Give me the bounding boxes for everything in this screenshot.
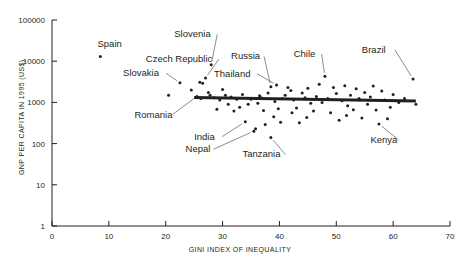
annotation-label: India — [194, 131, 215, 142]
data-point — [305, 116, 308, 119]
data-point — [318, 83, 321, 86]
data-point — [323, 75, 326, 78]
data-point — [372, 85, 375, 88]
scatter-chart: 110100100010000100000 010203040506070 Sp… — [0, 0, 470, 263]
data-point — [264, 123, 267, 126]
data-point — [178, 81, 181, 84]
annotation-label: Nepal — [186, 143, 211, 154]
annotation-label: Spain — [97, 38, 121, 49]
data-point — [215, 108, 218, 111]
data-point — [254, 127, 257, 130]
data-point — [335, 92, 338, 95]
annotation-label: Czech Republic — [146, 53, 213, 64]
data-point — [232, 109, 235, 112]
data-point — [277, 107, 280, 110]
x-axis-title: GINI INDEX OF INEQUALITY — [189, 246, 292, 254]
data-point — [269, 85, 272, 88]
data-point — [244, 120, 247, 123]
x-tick-label: 30 — [218, 232, 227, 241]
x-tick-label: 50 — [332, 232, 341, 241]
annotation-label: Thailand — [214, 68, 250, 79]
data-point — [221, 88, 224, 91]
data-point — [99, 55, 102, 58]
y-axis-title: GNP PER CAPITA IN 1995 (US$) — [18, 59, 26, 175]
data-point — [380, 89, 383, 92]
data-point — [298, 121, 301, 124]
data-point — [295, 107, 298, 110]
annotation-label: Chile — [294, 48, 316, 59]
x-tick-label: 0 — [50, 232, 55, 241]
data-point — [343, 84, 346, 87]
annotation-label: Romania — [134, 109, 173, 120]
data-point — [273, 100, 276, 103]
y-tick-label: 100000 — [18, 16, 45, 25]
leader-line — [257, 74, 274, 84]
data-point — [352, 108, 355, 111]
data-point — [332, 86, 335, 89]
data-point — [369, 96, 372, 99]
leader-line — [214, 133, 251, 150]
data-point — [363, 91, 366, 94]
leader-line — [222, 124, 242, 137]
x-tick-label: 10 — [104, 232, 113, 241]
data-point — [414, 103, 417, 106]
plot-area: 110100100010000100000 010203040506070 Sp… — [0, 0, 470, 263]
y-tick-label: 10000 — [23, 57, 46, 66]
data-point — [301, 91, 304, 94]
annotation-label: Slovakia — [123, 67, 160, 78]
data-point — [262, 109, 265, 112]
annotation-label: Kenya — [370, 134, 398, 145]
data-point — [366, 103, 369, 106]
x-tick-label: 60 — [389, 232, 398, 241]
data-point — [256, 102, 259, 105]
data-point — [289, 89, 292, 92]
data-point — [238, 106, 241, 109]
leader-line — [322, 54, 325, 73]
y-tick-label: 1 — [41, 222, 46, 231]
leader-line — [166, 73, 177, 80]
x-tick-labels: 010203040506070 — [50, 232, 455, 241]
annotation-label: Russia — [231, 50, 261, 61]
data-point — [389, 106, 392, 109]
leader-line — [212, 34, 217, 61]
leader-line — [172, 98, 194, 114]
data-point — [315, 95, 318, 98]
data-point — [252, 130, 255, 133]
y-tick-label: 100 — [32, 140, 46, 149]
data-point — [360, 116, 363, 119]
data-point — [241, 93, 244, 96]
data-point — [345, 114, 348, 117]
data-point — [309, 102, 312, 105]
trend-line-segment — [194, 97, 416, 101]
y-tick-label: 10 — [36, 181, 45, 190]
data-point — [272, 115, 275, 118]
data-point — [290, 111, 293, 114]
data-point — [329, 111, 332, 114]
data-point — [207, 91, 210, 94]
data-point — [279, 121, 282, 124]
data-point — [198, 81, 201, 84]
annotation-label: Tanzania — [242, 148, 281, 159]
data-point — [224, 94, 227, 97]
data-point — [375, 109, 378, 112]
data-point — [275, 83, 278, 86]
data-point — [346, 104, 349, 107]
data-point — [284, 94, 287, 97]
data-point — [306, 87, 309, 90]
data-point — [349, 94, 352, 97]
x-tick-label: 40 — [275, 232, 284, 241]
data-point — [267, 91, 270, 94]
x-tick-label: 70 — [446, 232, 455, 241]
annotation-label: Brazil — [362, 44, 386, 55]
data-point — [412, 77, 415, 80]
data-point — [338, 119, 341, 122]
data-point — [386, 117, 389, 120]
leader-line — [395, 50, 411, 76]
data-point — [201, 82, 204, 85]
data-point — [377, 122, 380, 125]
data-point — [167, 94, 170, 97]
x-tick-label: 20 — [161, 232, 170, 241]
data-point — [355, 87, 358, 90]
data-point — [392, 93, 395, 96]
data-point — [247, 103, 250, 106]
